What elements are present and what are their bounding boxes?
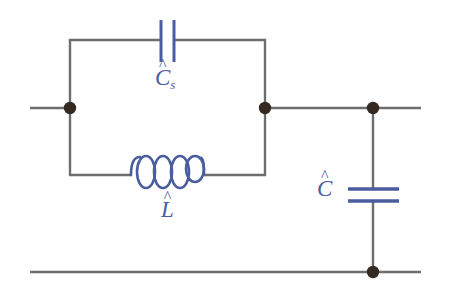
node-input-left xyxy=(64,102,76,114)
hat-accent-icon: ^ xyxy=(159,57,167,73)
circuit-diagram-canvas: ^ C s ^ L ^ C xyxy=(0,0,451,296)
circuit-schematic-svg xyxy=(0,0,451,296)
inductor-symbol xyxy=(131,156,204,188)
series-capacitor-label: ^ C s xyxy=(155,66,175,91)
node-shunt-bottom xyxy=(367,266,379,278)
inductor-label: ^ L xyxy=(161,198,174,221)
shunt-capacitor-symbol xyxy=(348,189,399,201)
wire-group xyxy=(30,39,421,272)
series-capacitor-label-subscript: s xyxy=(170,77,175,92)
node-shunt-top xyxy=(367,102,379,114)
inductor-loop-2 xyxy=(154,156,172,188)
node-tank-right xyxy=(259,102,271,114)
hat-accent-icon: ^ xyxy=(321,168,329,184)
hat-accent-icon: ^ xyxy=(164,189,172,205)
inductor-loop-1 xyxy=(137,156,155,188)
shunt-capacitor-label: ^ C xyxy=(317,177,332,200)
